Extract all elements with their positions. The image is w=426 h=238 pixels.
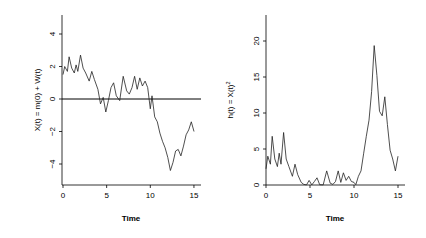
right-x-label: Time (326, 214, 345, 223)
figure: −4−2024 051015 X(t) = m(0) + W(t) Time 0… (0, 0, 426, 238)
right-series-line (266, 46, 398, 185)
left-y-ticks: −4−2024 (48, 31, 62, 168)
x-tick-label: 0 (264, 191, 269, 200)
left-x-label: Time (122, 214, 141, 223)
y-tick-label: −4 (48, 159, 57, 169)
left-y-label: X(t) = m(0) + W(t) (33, 68, 42, 131)
y-tick-label: 5 (252, 146, 261, 151)
x-tick-label: 10 (350, 191, 359, 200)
y-tick-label: 0 (252, 182, 261, 187)
x-tick-label: 15 (189, 191, 198, 200)
y-tick-label: −2 (48, 126, 57, 136)
right-x-ticks: 051015 (264, 185, 403, 200)
y-tick-label: 10 (252, 108, 261, 117)
left-plot: −4−2024 051015 X(t) = m(0) + W(t) Time (33, 15, 201, 223)
y-tick-label: 20 (252, 36, 261, 45)
x-tick-label: 5 (308, 191, 313, 200)
left-series-line (63, 55, 194, 170)
right-y-label: h(t) = X(t)2 (225, 81, 235, 118)
y-tick-label: 15 (252, 72, 261, 81)
y-tick-label: 2 (48, 64, 57, 69)
x-tick-label: 15 (394, 191, 403, 200)
right-plot: 05101520 051015 h(t) = X(t)2 Time (225, 15, 405, 223)
x-tick-label: 5 (104, 191, 109, 200)
right-y-ticks: 05101520 (252, 36, 266, 187)
x-tick-label: 10 (146, 191, 155, 200)
left-x-ticks: 051015 (61, 185, 199, 200)
y-tick-label: 0 (48, 96, 57, 101)
y-tick-label: 4 (48, 31, 57, 36)
x-tick-label: 0 (61, 191, 66, 200)
